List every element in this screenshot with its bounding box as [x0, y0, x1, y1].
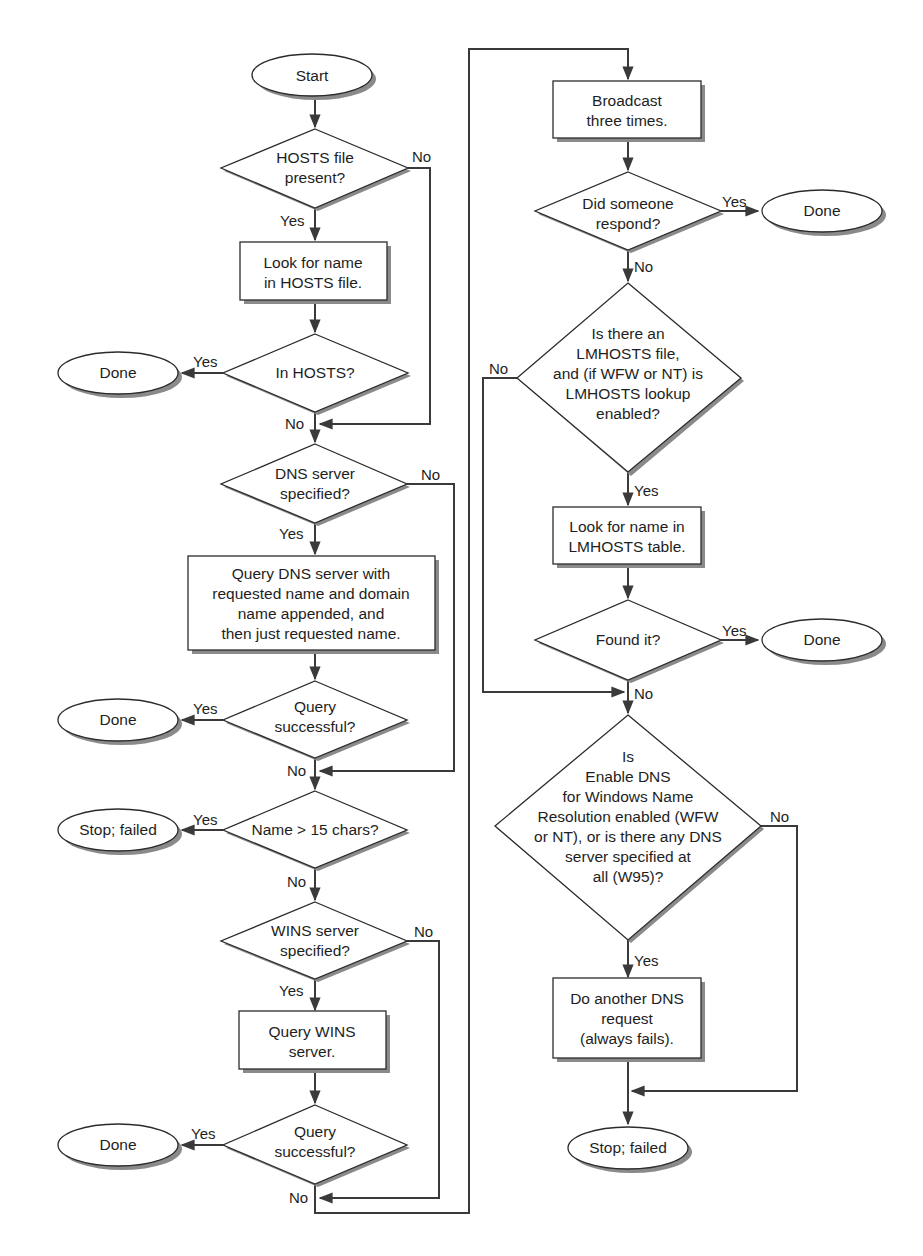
label-inhosts-no: No	[285, 415, 304, 432]
found-label: Found it?	[596, 631, 661, 648]
done-4-label: Done	[803, 202, 840, 219]
decision-respond	[535, 172, 724, 253]
process-lookup-hosts	[240, 242, 391, 304]
label-hosts-yes: Yes	[280, 212, 304, 229]
respond-line-2: respond?	[596, 215, 661, 232]
done-1-label: Done	[99, 364, 136, 381]
another-dns-line-1: Do another DNS	[570, 990, 684, 1007]
label-wins-no: No	[414, 923, 433, 940]
label-found-no: No	[634, 685, 653, 702]
label-respond-no: No	[634, 258, 653, 275]
start-label: Start	[296, 67, 329, 84]
stop-failed-1-label: Stop; failed	[79, 821, 157, 838]
enable-dns-line-2: Enable DNS	[585, 768, 670, 785]
broadcast-line-1: Broadcast	[592, 92, 662, 109]
dns-specified-line-1: DNS server	[275, 465, 355, 482]
done-3-label: Done	[99, 1136, 136, 1153]
dns-specified-line-2: specified?	[280, 485, 350, 502]
label-hosts-no: No	[412, 148, 431, 165]
query-dns-line-1: Query DNS server with	[232, 565, 390, 582]
lookup-lmhosts-line-1: Look for name in	[569, 518, 684, 535]
enable-dns-line-4: Resolution enabled (WFW	[538, 808, 719, 825]
enable-dns-line-1: Is	[622, 748, 634, 765]
lookup-lmhosts-line-2: LMHOSTS table.	[568, 538, 685, 555]
broadcast-line-2: three times.	[587, 112, 668, 129]
done-5-label: Done	[803, 631, 840, 648]
enable-dns-line-3: for Windows Name	[563, 788, 694, 805]
enable-dns-line-7: all (W95)?	[593, 868, 664, 885]
done-2-label: Done	[99, 711, 136, 728]
lmhosts-line-1: Is there an	[591, 325, 664, 342]
wins-specified-line-1: WINS server	[271, 922, 359, 939]
stop-failed-2-label: Stop; failed	[589, 1139, 667, 1156]
lookup-hosts-line-2: in HOSTS file.	[264, 274, 362, 291]
label-namelen-yes: Yes	[193, 811, 217, 828]
in-hosts-label: In HOSTS?	[275, 364, 355, 381]
query-dns-line-2: requested name and domain	[212, 585, 409, 602]
query-dns-line-4: then just requested name.	[221, 625, 400, 642]
respond-line-1: Did someone	[582, 195, 673, 212]
dns-success-line-2: successful?	[275, 718, 356, 735]
label-lmhosts-yes: Yes	[634, 482, 658, 499]
lmhosts-line-5: enabled?	[596, 405, 660, 422]
label-winssuccess-yes: Yes	[191, 1125, 215, 1142]
label-dnssuccess-no: No	[287, 762, 306, 779]
enable-dns-line-5: or NT), or is there any DNS	[534, 828, 722, 845]
lmhosts-line-4: LMHOSTS lookup	[566, 385, 691, 402]
another-dns-line-3: (always fails).	[580, 1030, 674, 1047]
another-dns-line-2: request	[601, 1010, 653, 1027]
label-found-yes: Yes	[722, 622, 746, 639]
flowchart-canvas: Start HOSTS file present? Look for name …	[0, 0, 923, 1256]
wins-success-line-1: Query	[294, 1123, 336, 1140]
lmhosts-line-2: LMHOSTS file,	[576, 345, 679, 362]
lookup-hosts-line-1: Look for name	[263, 254, 362, 271]
label-lmhosts-no: No	[489, 360, 508, 377]
lmhosts-line-3: and (if WFW or NT) is	[553, 365, 703, 382]
process-query-wins	[239, 1011, 390, 1073]
wins-specified-line-2: specified?	[280, 942, 350, 959]
label-inhosts-yes: Yes	[193, 353, 217, 370]
label-enabledns-yes: Yes	[634, 952, 658, 969]
wins-success-line-2: successful?	[275, 1143, 356, 1160]
label-enabledns-no: No	[770, 808, 789, 825]
label-dns-yes: Yes	[279, 525, 303, 542]
query-dns-line-3: name appended, and	[238, 605, 385, 622]
label-namelen-no: No	[287, 873, 306, 890]
label-winssuccess-no: No	[289, 1189, 308, 1206]
enable-dns-line-6: server specified at	[565, 848, 691, 865]
query-wins-line-1: Query WINS	[269, 1023, 356, 1040]
label-dnssuccess-yes: Yes	[193, 700, 217, 717]
hosts-present-line-2: present?	[285, 169, 346, 186]
label-respond-yes: Yes	[722, 193, 746, 210]
label-dns-no: No	[421, 466, 440, 483]
query-wins-line-2: server.	[289, 1043, 336, 1060]
name-length-label: Name > 15 chars?	[251, 821, 378, 838]
label-wins-yes: Yes	[279, 982, 303, 999]
dns-success-line-1: Query	[294, 698, 336, 715]
hosts-present-line-1: HOSTS file	[276, 149, 354, 166]
